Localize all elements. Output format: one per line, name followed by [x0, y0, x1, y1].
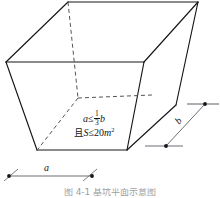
dimension-b-endpoint-upper	[203, 102, 207, 106]
hidden-edge-back-left-vertical	[68, 2, 78, 98]
solid-visible-edges	[6, 2, 198, 150]
dimension-b	[145, 102, 219, 148]
edge-right-outer-slant	[176, 2, 198, 105]
hidden-edge-bottom-right	[78, 95, 152, 98]
figure-line-drawing	[0, 0, 220, 198]
solid-hidden-edges	[38, 2, 152, 149]
dimension-b-line	[166, 104, 205, 146]
figure-container: a≤13b 且S≤20m2 a b 图 4-1 基坑平面示意图	[0, 0, 220, 198]
dimension-a-tick-left	[4, 169, 18, 181]
edge-top-left-receding	[6, 2, 68, 62]
dimension-a-endpoint-right	[90, 174, 94, 178]
edge-front-left-slant	[6, 62, 37, 150]
dimension-a-endpoint-left	[7, 174, 11, 178]
dimension-b-endpoint-lower	[164, 144, 168, 148]
hidden-edge-bottom-left	[38, 98, 78, 149]
dimension-a-tick-right	[83, 169, 97, 181]
dimension-a	[4, 169, 97, 181]
edge-top-right-receding	[144, 2, 198, 62]
